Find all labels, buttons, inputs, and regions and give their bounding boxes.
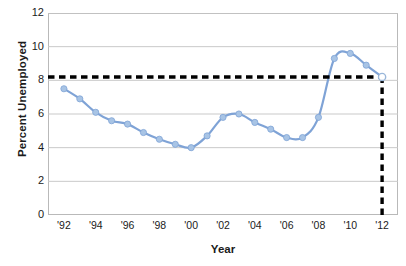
x-tick-label: '98 <box>144 219 174 231</box>
x-tick-label: '96 <box>113 219 143 231</box>
data-point <box>315 114 321 120</box>
x-axis-tick-labels: '92'94'96'98'00'02'04'06'08'10'12 <box>48 219 398 233</box>
x-tick-label: '12 <box>367 219 397 231</box>
data-point <box>77 96 83 102</box>
y-tick-label: 12 <box>22 6 44 18</box>
data-point <box>299 134 305 140</box>
data-point <box>268 126 274 132</box>
data-point <box>204 133 210 139</box>
chart-figure: Percent Unemployed 024681012 '92'94'96'9… <box>0 0 406 266</box>
x-tick-label: '00 <box>176 219 206 231</box>
data-point <box>124 121 130 127</box>
y-tick-label: 10 <box>22 40 44 52</box>
data-point <box>252 119 258 125</box>
annotation-lines <box>48 77 382 215</box>
data-point <box>188 145 194 151</box>
y-axis-tick-labels: 024681012 <box>20 13 44 215</box>
data-point <box>61 86 67 92</box>
y-tick-label: 6 <box>22 107 44 119</box>
x-tick-label: '92 <box>49 219 79 231</box>
x-tick-label: '04 <box>240 219 270 231</box>
y-tick-label: 4 <box>22 141 44 153</box>
data-point <box>172 141 178 147</box>
data-point <box>140 129 146 135</box>
data-point <box>363 62 369 68</box>
x-tick-label: '02 <box>208 219 238 231</box>
data-point <box>284 134 290 140</box>
data-point <box>347 50 353 56</box>
data-line <box>64 51 382 148</box>
x-tick-label: '94 <box>81 219 111 231</box>
x-axis-label: Year <box>48 243 398 255</box>
chart-canvas <box>48 13 398 215</box>
data-point <box>220 114 226 120</box>
projected-2012-point <box>378 73 385 80</box>
data-point <box>93 109 99 115</box>
data-point <box>156 136 162 142</box>
data-point <box>109 118 115 124</box>
x-tick-label: '10 <box>335 219 365 231</box>
y-tick-label: 2 <box>22 174 44 186</box>
chart-title <box>0 0 406 1</box>
x-tick-label: '08 <box>303 219 333 231</box>
y-tick-label: 0 <box>22 208 44 220</box>
y-tick-label: 8 <box>22 73 44 85</box>
data-point <box>236 111 242 117</box>
x-tick-label: '06 <box>272 219 302 231</box>
data-point <box>331 55 337 61</box>
gridlines <box>48 13 398 181</box>
